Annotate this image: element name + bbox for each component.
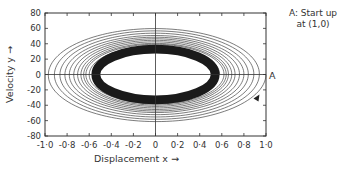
svg-text:20: 20 [30,54,41,64]
y-axis-title: Velocity y → [4,46,15,103]
svg-text:-20: -20 [27,85,41,95]
trajectory-loops [48,29,266,122]
annotation-line-1: A: Start up [283,8,339,19]
svg-text:0·2: 0·2 [171,140,185,150]
svg-text:-0·2: -0·2 [125,140,142,150]
svg-text:-0·4: -0·4 [103,140,120,150]
svg-text:0: 0 [36,70,41,80]
annotation-line-2: at (1,0) [283,19,339,30]
svg-text:-0·6: -0·6 [81,140,98,150]
svg-text:0·8: 0·8 [237,140,251,150]
start-annotation: A: Start up at (1,0) [283,8,339,30]
start-point-marker: A [269,70,276,81]
svg-text:80: 80 [30,8,41,18]
svg-text:-60: -60 [27,116,41,126]
svg-text:1·0: 1·0 [259,140,273,150]
svg-text:-0·8: -0·8 [59,140,76,150]
x-axis-title: Displacement x → [94,153,179,164]
svg-text:40: 40 [30,39,41,49]
svg-text:0·6: 0·6 [215,140,229,150]
svg-text:0·4: 0·4 [193,140,207,150]
zero-axes [45,13,266,136]
tick-labels: -1·0-0·8-0·6-0·4-0·200·20·40·60·81·08060… [27,8,273,150]
svg-text:-40: -40 [27,100,41,110]
svg-text:-1·0: -1·0 [37,140,54,150]
svg-text:0: 0 [153,140,158,150]
svg-text:60: 60 [30,23,41,33]
svg-text:-80: -80 [27,131,41,141]
